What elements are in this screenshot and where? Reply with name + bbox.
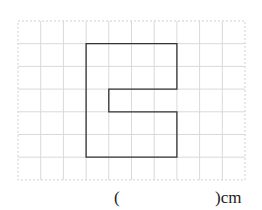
answer-open-paren: (: [114, 188, 120, 208]
answer-blank[interactable]: [125, 188, 213, 208]
answer-close-unit: )cm: [215, 188, 241, 208]
grid-figure: [0, 0, 262, 210]
